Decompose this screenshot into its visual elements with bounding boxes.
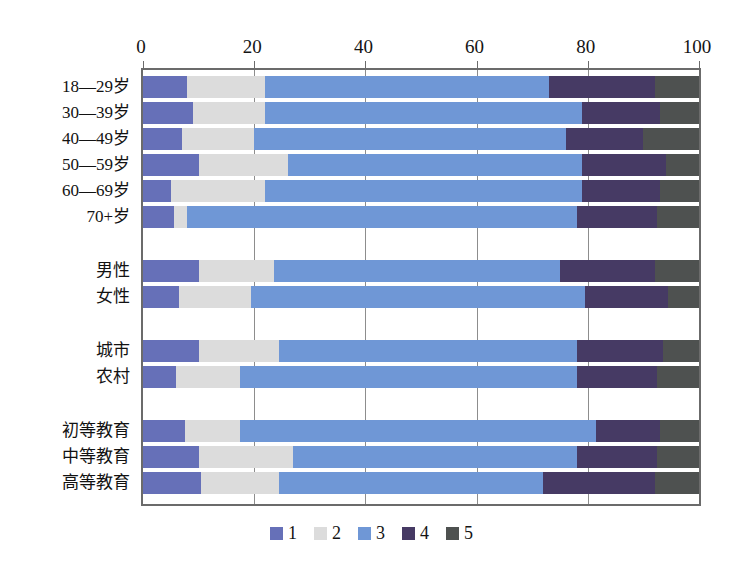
bar-segment xyxy=(176,366,240,388)
bar-segment xyxy=(657,446,699,468)
legend-swatch-icon xyxy=(314,527,327,540)
bar-segment xyxy=(182,128,254,150)
bar-row xyxy=(143,260,699,282)
bar-segment xyxy=(668,286,699,308)
x-axis-tick-label: 60 xyxy=(465,36,484,58)
bar-row xyxy=(143,366,699,388)
bar-segment xyxy=(585,286,668,308)
bar-segment xyxy=(240,420,596,442)
bar-segment xyxy=(577,446,658,468)
bar-segment xyxy=(265,102,582,124)
x-axis-tick-label: 100 xyxy=(683,36,712,58)
bar-row xyxy=(143,446,699,468)
legend-label: 1 xyxy=(288,524,297,542)
bar-segment xyxy=(279,472,543,494)
bar-segment xyxy=(199,446,294,468)
category-label: 50—59岁 xyxy=(62,156,130,174)
bar-segment xyxy=(179,286,251,308)
bar-segment xyxy=(549,76,655,98)
bar-segment xyxy=(660,180,699,202)
stacked-bar-chart: 020406080100 18—29岁30—39岁40—49岁50—59岁60—… xyxy=(0,0,743,578)
legend-item: 4 xyxy=(402,524,429,542)
x-axis-tick-mark xyxy=(365,61,366,70)
category-label: 18—29岁 xyxy=(62,78,130,96)
bar-segment xyxy=(174,206,188,228)
bar-segment xyxy=(582,180,660,202)
category-label: 高等教育 xyxy=(62,474,130,492)
category-label: 女性 xyxy=(96,288,130,306)
bar-row xyxy=(143,206,699,228)
legend-item: 3 xyxy=(358,524,385,542)
bar-segment xyxy=(293,446,577,468)
x-axis-tick-mark xyxy=(254,61,255,70)
bar-segment xyxy=(577,206,658,228)
x-axis-tick-label: 0 xyxy=(136,36,146,58)
bar-row xyxy=(143,76,699,98)
bar-segment xyxy=(577,366,658,388)
bar-segment xyxy=(143,340,199,362)
bar-segment xyxy=(240,366,576,388)
plot-bottom-border xyxy=(141,504,701,506)
bar-segment xyxy=(265,76,549,98)
bar-segment xyxy=(666,154,699,176)
bar-segment xyxy=(143,446,199,468)
x-axis-tick-label: 20 xyxy=(243,36,262,58)
bar-segment xyxy=(251,286,585,308)
bar-segment xyxy=(660,420,699,442)
bar-segment xyxy=(143,286,179,308)
bar-segment xyxy=(657,206,699,228)
legend-item: 5 xyxy=(446,524,473,542)
x-axis-tick-label: 80 xyxy=(576,36,595,58)
category-label: 男性 xyxy=(96,262,130,280)
legend-item: 1 xyxy=(270,524,297,542)
bar-row xyxy=(143,472,699,494)
legend-label: 4 xyxy=(420,524,429,542)
x-axis-tick-mark xyxy=(588,61,589,70)
bar-segment xyxy=(187,206,576,228)
legend-swatch-icon xyxy=(446,527,459,540)
bar-segment xyxy=(143,260,199,282)
bar-segment xyxy=(577,340,663,362)
x-axis-tick-mark xyxy=(477,61,478,70)
bar-segment xyxy=(254,128,565,150)
bar-row xyxy=(143,128,699,150)
x-axis-tick-mark xyxy=(699,61,700,70)
bar-segment xyxy=(193,102,265,124)
category-label: 农村 xyxy=(96,368,130,386)
legend-swatch-icon xyxy=(402,527,415,540)
category-label: 60—69岁 xyxy=(62,182,130,200)
bar-segment xyxy=(279,340,576,362)
bar-segment xyxy=(643,128,699,150)
bar-segment xyxy=(274,260,560,282)
bar-segment xyxy=(655,260,699,282)
legend-label: 5 xyxy=(464,524,473,542)
bar-segment xyxy=(582,102,660,124)
bar-row xyxy=(143,102,699,124)
bar-segment xyxy=(655,76,699,98)
x-axis-tick-labels: 020406080100 xyxy=(0,36,743,62)
bar-segment xyxy=(655,472,699,494)
category-label: 初等教育 xyxy=(62,422,130,440)
bar-segment xyxy=(143,472,201,494)
bar-segment xyxy=(143,154,199,176)
category-label: 中等教育 xyxy=(62,448,130,466)
bar-segment xyxy=(199,340,280,362)
category-label: 70+岁 xyxy=(86,208,130,226)
bar-row xyxy=(143,340,699,362)
bar-segment xyxy=(143,128,182,150)
plot-area xyxy=(141,70,701,504)
bar-segment xyxy=(199,260,274,282)
bar-segment xyxy=(143,76,187,98)
bar-segment xyxy=(663,340,699,362)
category-axis-labels: 18—29岁30—39岁40—49岁50—59岁60—69岁70+岁男性女性城市… xyxy=(0,70,136,504)
legend-swatch-icon xyxy=(270,527,283,540)
legend-label: 3 xyxy=(376,524,385,542)
bar-segment xyxy=(143,180,171,202)
bar-row xyxy=(143,154,699,176)
bar-segment xyxy=(566,128,644,150)
bar-row xyxy=(143,286,699,308)
bar-segment xyxy=(657,366,699,388)
bar-segment xyxy=(596,420,660,442)
x-axis-tick-label: 40 xyxy=(354,36,373,58)
bar-segment xyxy=(187,76,265,98)
